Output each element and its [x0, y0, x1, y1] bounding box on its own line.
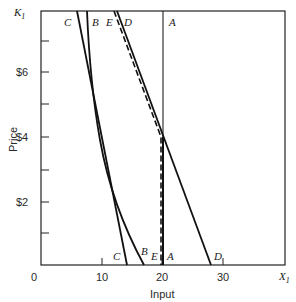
curve-E: [114, 11, 161, 265]
curve-B: [87, 11, 144, 265]
x-axis-title: Input: [150, 288, 174, 300]
x1-label: X1: [278, 270, 290, 285]
label-top-C: C: [64, 16, 72, 28]
label-bot-C: C: [113, 250, 121, 262]
x-tick-20: 20: [156, 271, 168, 283]
label-top-D: D: [123, 16, 132, 28]
curve-C: [77, 11, 127, 265]
origin-label: 0: [31, 271, 37, 283]
x-tick-30: 30: [217, 271, 229, 283]
y-ticks: [41, 41, 49, 233]
label-top-B: B: [92, 16, 99, 28]
label-bot-E: E: [150, 250, 158, 262]
label-top-E: E: [105, 16, 113, 28]
price-input-chart: K1 $6 $4 $2 0 10 20 30 X1 Input Price C …: [0, 0, 296, 302]
y-tick-6: $6: [16, 66, 28, 78]
label-bot-D: D: [213, 250, 222, 262]
y-tick-2: $2: [16, 196, 28, 208]
label-bot-B: B: [141, 245, 148, 257]
label-bot-A: A: [166, 250, 174, 262]
k1-label: K1: [13, 6, 25, 21]
x-tick-10: 10: [96, 271, 108, 283]
label-top-A: A: [168, 16, 176, 28]
y-axis-title: Price: [7, 127, 19, 152]
